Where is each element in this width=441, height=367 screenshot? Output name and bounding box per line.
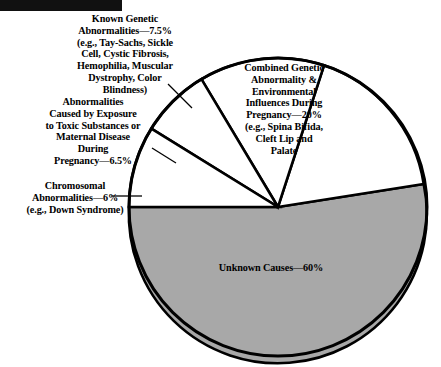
label-chromosomal-abnormalities: Chromosomal Abnormalities—6% (e.g., Down… <box>2 180 148 215</box>
label-combined-genetic-environmental: Combined Genetic Abnormality & Environme… <box>224 62 344 157</box>
label-toxic-substances-maternal-disease: Abnormalities Caused by Exposure to Toxi… <box>18 96 168 167</box>
label-line: Palate <box>224 145 344 157</box>
label-line: Dystrophy, Color <box>44 72 206 84</box>
label-line: Abnormality & <box>224 74 344 86</box>
label-known-genetic-abnormalities: Known Genetic Abnormalities—7.5% (e.g., … <box>44 13 206 96</box>
label-line: Combined Genetic <box>224 62 344 74</box>
label-line: Caused by Exposure <box>18 108 168 120</box>
label-line: Unknown Causes—60% <box>196 262 346 274</box>
label-line: Abnormalities—7.5% <box>44 25 206 37</box>
label-line: Cell, Cystic Fibrosis, <box>44 48 206 60</box>
label-line: Blindness) <box>44 84 206 96</box>
label-line: Environmental <box>224 86 344 98</box>
label-line: Pregnancy—6.5% <box>18 155 168 167</box>
label-line: (e.g., Down Syndrome) <box>2 204 148 216</box>
label-line: Hemophilia, Muscular <box>44 60 206 72</box>
label-line: Influences During <box>224 97 344 109</box>
label-unknown-causes: Unknown Causes—60% <box>196 262 346 274</box>
label-line: (e.g., Spina Bifida, <box>224 121 344 133</box>
label-line: (e.g., Tay-Sachs, Sickle <box>44 37 206 49</box>
label-line: Chromosomal <box>2 180 148 192</box>
label-line: Pregnancy—20% <box>224 109 344 121</box>
label-line: Known Genetic <box>44 13 206 25</box>
label-line: During <box>18 143 168 155</box>
label-line: to Toxic Substances or <box>18 120 168 132</box>
label-line: Abnormalities <box>18 96 168 108</box>
pie-chart-figure: Known Genetic Abnormalities—7.5% (e.g., … <box>0 0 441 367</box>
label-line: Abnormalities—6% <box>2 192 148 204</box>
label-line: Maternal Disease <box>18 131 168 143</box>
label-line: Cleft Lip and <box>224 133 344 145</box>
